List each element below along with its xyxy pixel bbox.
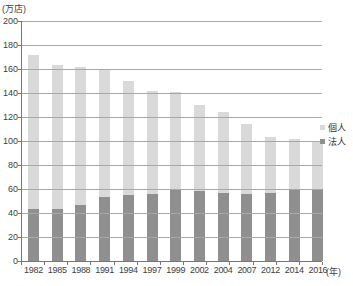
y-tick-label-20: 20 [0, 232, 18, 242]
x-axis-line [21, 261, 322, 262]
legend-swatch-kojin [320, 125, 325, 130]
bar-1997-segment-個人 [147, 91, 158, 194]
bar-2007-segment-個人 [241, 124, 252, 194]
bar-1994-segment-個人 [123, 81, 134, 195]
y-tick-label-80: 80 [0, 160, 18, 170]
gridline-180 [21, 45, 322, 46]
bar-2016-segment-法人 [312, 189, 323, 261]
y-tick-label-200: 200 [0, 16, 18, 26]
y-tick-label-140: 140 [0, 88, 18, 98]
bar-2002-segment-法人 [194, 191, 205, 261]
bar-1991-segment-個人 [99, 70, 110, 197]
gridline-160 [21, 69, 322, 70]
gridline-20 [21, 237, 322, 238]
bar-1985-segment-法人 [52, 209, 63, 261]
y-tick-label-60: 60 [0, 184, 18, 194]
bar-2012-segment-法人 [265, 193, 276, 261]
legend-item-kojin: 個人 [320, 122, 346, 133]
gridline-60 [21, 189, 322, 190]
gridline-100 [21, 141, 322, 142]
x-tick-label-2016: 2016 [304, 265, 332, 275]
gridline-200 [21, 21, 322, 22]
bar-1991-segment-法人 [99, 197, 110, 261]
y-tick-label-0: 0 [0, 256, 18, 266]
gridline-80 [21, 165, 322, 166]
bar-2004-segment-個人 [218, 112, 229, 192]
bar-1988-segment-個人 [75, 67, 86, 205]
y-tick-label-160: 160 [0, 64, 18, 74]
gridline-140 [21, 93, 322, 94]
y-tick-label-100: 100 [0, 136, 18, 146]
legend-swatch-hojin [320, 139, 325, 144]
y-axis-unit-label: (万店) [2, 2, 26, 15]
y-tick-label-180: 180 [0, 40, 18, 50]
bar-1997-segment-法人 [147, 194, 158, 261]
bar-2014-segment-法人 [289, 189, 300, 261]
bar-2004-segment-法人 [218, 193, 229, 261]
bar-1985-segment-個人 [52, 65, 63, 209]
bar-2014-segment-個人 [289, 139, 300, 189]
bar-1994-segment-法人 [123, 195, 134, 261]
legend: 個人 法人 [320, 122, 346, 150]
gridline-40 [21, 213, 322, 214]
bar-1982-segment-法人 [28, 209, 39, 261]
legend-label-hojin: 法人 [328, 135, 346, 148]
y-tick-label-120: 120 [0, 112, 18, 122]
y-axis-line [21, 21, 22, 264]
bar-1999-segment-法人 [170, 190, 181, 261]
stacked-bar-chart: (万店) 02040608010012014016018020019821985… [0, 0, 353, 286]
bar-1982-segment-個人 [28, 55, 39, 210]
gridline-120 [21, 117, 322, 118]
legend-item-hojin: 法人 [320, 136, 346, 147]
legend-label-kojin: 個人 [328, 121, 346, 134]
y-tick-label-40: 40 [0, 208, 18, 218]
bar-2007-segment-法人 [241, 194, 252, 261]
